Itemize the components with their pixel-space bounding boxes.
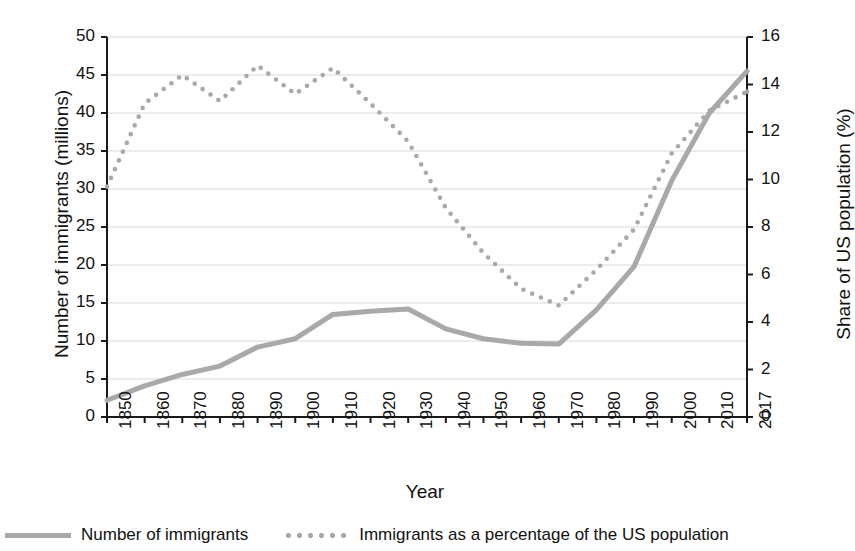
series-dot	[479, 248, 484, 253]
y-axis-right-tick-label: 8	[761, 216, 807, 236]
series-dot	[624, 235, 629, 240]
legend-item-share-of-population: Immigrants as a percentage of the US pop…	[283, 525, 729, 545]
x-axis-tick-label: 1940	[455, 391, 475, 429]
series-dot	[507, 275, 512, 280]
series-dot	[177, 75, 182, 80]
legend-label-share-of-population: Immigrants as a percentage of the US pop…	[359, 525, 729, 545]
series-dot	[121, 149, 126, 154]
y-axis-right-tick-label: 4	[761, 311, 807, 331]
series-dot	[208, 92, 213, 97]
y-axis-left-tick-label: 10	[49, 330, 95, 350]
x-axis-tick-label: 1900	[304, 391, 324, 429]
x-axis-tick-label: 1990	[643, 391, 663, 429]
series-dot	[349, 83, 354, 88]
y-axis-left-tick-label: 20	[49, 254, 95, 274]
series-dot	[563, 297, 568, 302]
series-dot	[521, 287, 526, 292]
series-dot	[154, 93, 159, 98]
series-dot	[185, 76, 190, 81]
series-dot	[500, 268, 505, 273]
x-axis-tick-label: 1930	[417, 391, 437, 429]
series-dot	[454, 219, 459, 224]
series-dot	[377, 110, 382, 115]
series-dot	[467, 234, 472, 239]
y-axis-right-tick-label: 2	[761, 359, 807, 379]
series-dot	[733, 95, 738, 100]
series-dot	[745, 89, 750, 94]
series-dot	[109, 176, 114, 181]
series-dot	[652, 186, 657, 191]
series-dot	[244, 74, 249, 79]
series-dot	[356, 90, 361, 95]
series-dot	[708, 108, 713, 113]
series-dot	[419, 162, 424, 167]
series-dot	[343, 77, 348, 82]
y-axis-left-tick-label: 0	[49, 406, 95, 426]
series-dot	[266, 71, 271, 76]
series-dot	[530, 291, 535, 296]
legend-item-number-of-immigrants: Number of immigrants	[5, 525, 248, 545]
series-dot	[237, 80, 242, 85]
series-dot	[461, 226, 466, 231]
series-dot	[384, 117, 389, 122]
x-axis-tick-label: 1970	[568, 391, 588, 429]
x-axis-tick-label: 2017	[756, 391, 776, 429]
x-axis-tick-label: 1960	[530, 391, 550, 429]
series-dot	[682, 137, 687, 142]
series-dot	[428, 179, 433, 184]
y-axis-left-tick-label: 15	[49, 292, 95, 312]
series-dot	[725, 99, 730, 104]
series-dot	[657, 177, 662, 182]
series-dot	[336, 70, 341, 75]
y-axis-left-tick-label: 50	[49, 26, 95, 46]
series-dot	[281, 83, 286, 88]
series-dot	[297, 89, 302, 94]
series-dot	[665, 160, 670, 165]
series-dot	[169, 81, 174, 86]
series-dot	[688, 130, 693, 135]
series-dot	[117, 158, 122, 163]
series-dot	[631, 228, 636, 233]
series-dot	[289, 89, 294, 94]
x-axis-tick-label: 1920	[380, 391, 400, 429]
series-dot	[556, 303, 561, 308]
x-axis-tick-label: 2010	[718, 391, 738, 429]
series-dot	[716, 104, 721, 109]
x-axis-tick-label: 1980	[605, 391, 625, 429]
series-dot	[146, 98, 151, 103]
series-line-share-of-population	[105, 66, 750, 308]
y-axis-left-tick-label: 25	[49, 216, 95, 236]
x-axis-tick-label: 1890	[267, 391, 287, 429]
series-dot	[661, 168, 666, 173]
series-dot	[570, 290, 575, 295]
y-axis-right-tick-label: 16	[761, 26, 807, 46]
series-dot	[313, 78, 318, 83]
x-axis-tick-label: 2000	[681, 391, 701, 429]
y-axis-right-tick-label: 6	[761, 264, 807, 284]
series-dot	[136, 114, 141, 119]
series-line-number-of-immigrants	[107, 71, 747, 400]
series-dot	[618, 242, 623, 247]
series-dot	[363, 97, 368, 102]
series-dot	[132, 123, 137, 128]
series-dot	[128, 132, 133, 137]
series-dot	[192, 81, 197, 86]
series-dot	[274, 77, 279, 82]
y-axis-left-tick-label: 35	[49, 140, 95, 160]
legend-swatch-dotted-line	[283, 533, 349, 538]
y-axis-right-tick-label: 14	[761, 74, 807, 94]
series-dot	[223, 94, 228, 99]
series-dot	[409, 145, 414, 150]
series-dot	[200, 87, 205, 92]
x-axis-tick-label: 1870	[191, 391, 211, 429]
series-dot	[414, 154, 419, 159]
series-dot	[105, 184, 110, 189]
x-axis-tick-label: 1910	[342, 391, 362, 429]
series-dot	[547, 299, 552, 304]
series-dot	[433, 187, 438, 192]
chart-legend: Number of immigrants Immigrants as a per…	[0, 519, 850, 551]
series-dot	[370, 103, 375, 108]
series-dot	[397, 131, 402, 136]
